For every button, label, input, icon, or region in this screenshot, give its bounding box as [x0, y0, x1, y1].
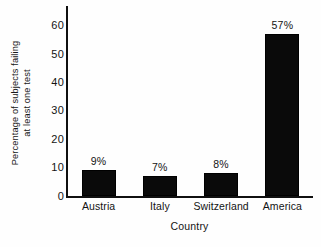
bar-chart: Percentage of subjects failing at least … [0, 0, 321, 247]
bar-value-label: 7% [152, 162, 168, 173]
bar[interactable] [204, 173, 238, 196]
bar-value-label: 57% [271, 20, 293, 31]
bar-group: 57% [265, 6, 299, 196]
x-axis-tick-label: Italy [150, 200, 170, 213]
y-axis-title-line-2: at least one test [21, 40, 33, 165]
y-axis-tick-label: 40 [38, 77, 64, 88]
x-axis-tick-label: Austria [82, 200, 115, 213]
y-axis-tick-label: 60 [38, 20, 64, 31]
bar-group: 9% [82, 6, 116, 196]
bar[interactable] [143, 176, 177, 196]
bar-value-label: 9% [91, 156, 107, 167]
bar-group: 8% [204, 6, 238, 196]
x-axis-line [66, 196, 313, 198]
bar[interactable] [82, 170, 116, 196]
y-axis-title: Percentage of subjects failing at least … [0, 0, 42, 205]
bar-value-label: 8% [213, 159, 229, 170]
x-axis-tick-labels: AustriaItalySwitzerlandAmerica [68, 200, 313, 216]
x-axis-title: Country [66, 220, 313, 232]
y-axis-tick-label: 0 [38, 191, 64, 202]
x-axis-tick-label: America [263, 200, 302, 213]
y-axis-tick-label: 20 [38, 134, 64, 145]
y-axis-tick-label: 30 [38, 105, 64, 116]
plot-area: 9%7%8%57% [68, 6, 313, 196]
y-axis-tick-label: 10 [38, 162, 64, 173]
bar[interactable] [265, 34, 299, 196]
x-axis-tick-label: Switzerland [193, 200, 248, 213]
bar-group: 7% [143, 6, 177, 196]
y-axis-title-line-1: Percentage of subjects failing [9, 40, 21, 165]
y-axis-tick-labels: 0102030405060 [38, 0, 64, 247]
y-axis-tick-label: 50 [38, 49, 64, 60]
